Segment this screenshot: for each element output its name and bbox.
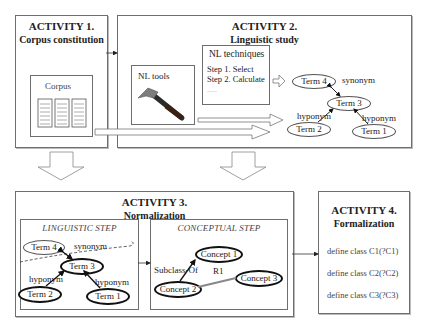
a3-term4-node: Term 4: [23, 240, 65, 255]
a2-term1-node: Term 1: [352, 124, 396, 139]
a2-hyponym-right-label: hyponym: [362, 113, 396, 124]
subclass-of-label: Subclass-Of: [154, 265, 198, 276]
nl-tools-box: NL tools: [131, 65, 195, 125]
concept1-node: Concept 1: [195, 246, 243, 263]
concept2-node: Concept 2: [154, 281, 202, 298]
nl-techniques-box: NL techniques Step 1. Select Step 2. Cal…: [202, 45, 270, 105]
activity4-box: ACTIVITY 4. Formalization define class C…: [318, 191, 410, 314]
nl-step-more: .....: [207, 84, 217, 95]
corpus-box: Corpus: [30, 75, 93, 137]
definition-c1: define class C1(?C1): [327, 246, 398, 257]
definition-c3: define class C3(?C3): [327, 290, 398, 301]
activity1-subtitle: Corpus constitution: [16, 33, 107, 46]
a3-hyponym-left-label: hyponym: [29, 274, 63, 285]
conceptual-step-label: CONCEPTUAL STEP: [151, 223, 287, 233]
document-stack-icon: [37, 98, 87, 128]
definition-c2: define class C2(?C2): [327, 268, 398, 279]
a3-synonym-label: synonym: [74, 241, 107, 252]
a3-term1-node: Term 1: [86, 288, 130, 305]
a2-term4-node: Term 4: [292, 74, 336, 89]
a2-synonym-label: synonym: [342, 75, 375, 86]
nl-techniques-label: NL techniques: [209, 49, 264, 60]
corpus-label: Corpus: [45, 81, 71, 92]
activity4-subtitle: Formalization: [319, 217, 409, 230]
a3-term3-node: Term 3: [60, 258, 104, 275]
a2-term3-node: Term 3: [327, 96, 371, 111]
hammer-icon: [134, 84, 190, 122]
nl-tools-label: NL tools: [138, 71, 169, 82]
a3-hyponym-right-label: hyponym: [95, 277, 129, 288]
activity4-title: ACTIVITY 4.: [319, 204, 409, 217]
a2-term2-node: Term 2: [287, 122, 331, 137]
activity3-title: ACTIVITY 3.: [16, 196, 293, 209]
activity2-title: ACTIVITY 2.: [118, 20, 411, 33]
activity2-down-arrow: [220, 152, 266, 180]
r1-label: R1: [213, 266, 224, 277]
activity1-title: ACTIVITY 1.: [16, 20, 107, 33]
activity1-down-arrow: [38, 152, 84, 180]
concept3-node: Concept 3: [235, 270, 283, 287]
linguistic-step-label: LINGUISTIC STEP: [21, 223, 138, 233]
a2-hyponym-left-label: hyponym: [297, 111, 331, 122]
a3-term2-node: Term 2: [18, 286, 62, 303]
